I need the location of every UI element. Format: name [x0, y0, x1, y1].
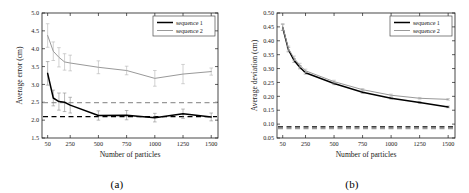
- y-tick-label: 0.35: [263, 51, 274, 58]
- legend-label-2: sequence 2: [176, 28, 203, 34]
- series-line-1: [48, 73, 212, 117]
- x-tick-label: 500: [94, 140, 103, 147]
- y-tick-label: 5.0: [31, 9, 39, 16]
- y-tick-label: 0.25: [263, 79, 274, 86]
- x-tick-label: 250: [66, 140, 75, 147]
- caption-b: (b): [235, 178, 469, 190]
- x-tick-label: 1250: [413, 140, 425, 147]
- y-tick-label: 0.40: [263, 37, 274, 44]
- chart-panel-a: 1.52.02.53.03.54.04.55.05025050075010001…: [0, 0, 234, 193]
- x-axis-label: Number of particles: [336, 150, 397, 159]
- y-tick-label: 4.0: [31, 45, 39, 52]
- x-tick-label: 250: [301, 140, 310, 147]
- y-tick-label: 0.10: [263, 120, 274, 127]
- figure-root: 1.52.02.53.03.54.04.55.05025050075010001…: [0, 0, 469, 193]
- y-tick-label: 0.50: [263, 9, 274, 16]
- y-axis-label: Average error (cm): [15, 46, 24, 105]
- y-tick-label: 2.5: [31, 98, 39, 105]
- y-tick-label: 3.5: [31, 63, 39, 70]
- legend-label-1: sequence 1: [413, 20, 440, 26]
- x-axis-label: Number of particles: [100, 150, 161, 159]
- x-tick-label: 750: [358, 140, 367, 147]
- series-line-2: [48, 36, 212, 79]
- legend-label-2: sequence 2: [413, 28, 440, 34]
- series-line-1: [283, 27, 448, 106]
- y-tick-label: 0.45: [263, 23, 274, 30]
- y-tick-label: 1.5: [31, 134, 39, 141]
- x-tick-label: 1000: [149, 140, 161, 147]
- chart-panel-b: 0.050.100.150.200.250.300.350.400.450.50…: [235, 0, 469, 193]
- y-tick-label: 0.15: [263, 106, 274, 113]
- x-tick-label: 50: [280, 140, 286, 147]
- x-tick-label: 1250: [177, 140, 189, 147]
- legend-label-1: sequence 1: [176, 20, 203, 26]
- y-tick-label: 0.30: [263, 65, 274, 72]
- x-tick-label: 750: [122, 140, 131, 147]
- x-tick-label: 1500: [205, 140, 217, 147]
- x-tick-label: 50: [45, 140, 51, 147]
- series-line-2: [283, 27, 448, 100]
- y-tick-label: 2.0: [31, 116, 39, 123]
- x-tick-label: 1000: [385, 140, 397, 147]
- y-tick-label: 0.20: [263, 93, 274, 100]
- y-tick-label: 4.5: [31, 27, 39, 34]
- chart-a-canvas: 1.52.02.53.03.54.04.55.05025050075010001…: [0, 0, 234, 165]
- chart-b-canvas: 0.050.100.150.200.250.300.350.400.450.50…: [235, 0, 469, 165]
- y-axis-label: Average deviation (cm): [250, 39, 259, 111]
- x-tick-label: 500: [329, 140, 338, 147]
- y-tick-label: 3.0: [31, 81, 39, 88]
- x-tick-label: 1500: [442, 140, 454, 147]
- caption-a: (a): [0, 178, 234, 190]
- y-tick-label: 0.05: [263, 134, 274, 141]
